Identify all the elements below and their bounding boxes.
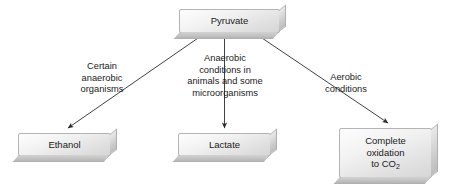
node-bevel-bottom (173, 155, 270, 162)
co2-subscript: 2 (396, 163, 400, 170)
branch-label-line: Aerobic (303, 72, 389, 84)
node-ethanol[interactable]: Ethanol (18, 133, 111, 156)
node-lactate-label: Lactate (205, 139, 244, 151)
diagram-canvas: Pyruvate Certain anaerobic organisms Ana… (0, 0, 476, 193)
branch-label-line: conditions (303, 84, 389, 96)
node-complete-oxidation-label: Complete oxidation to CO2 (361, 135, 410, 171)
oxidation-line-3: to CO (371, 158, 396, 169)
node-bevel-bottom (174, 32, 279, 39)
branch-label-ethanol: Certain anaerobic organisms (63, 61, 141, 96)
branch-label-lactate: Anaerobic conditions in animals and some… (150, 53, 300, 99)
node-ethanol-label: Ethanol (44, 139, 84, 151)
branch-label-line: microorganisms (150, 88, 300, 100)
node-complete-oxidation[interactable]: Complete oxidation to CO2 (339, 128, 432, 178)
branch-label-line: anaerobic (63, 73, 141, 85)
node-bevel-bottom (334, 177, 431, 184)
node-bevel-bottom (13, 155, 110, 162)
branch-label-line: animals and some (150, 76, 300, 88)
node-pyruvate[interactable]: Pyruvate (179, 9, 280, 33)
oxidation-line-2: oxidation (366, 147, 404, 158)
node-bevel-right (431, 124, 438, 177)
branch-label-line: Anaerobic (150, 53, 300, 65)
oxidation-line-1: Complete (365, 135, 406, 146)
node-lactate[interactable]: Lactate (178, 133, 271, 156)
node-pyruvate-label: Pyruvate (207, 15, 253, 27)
branch-label-oxidation: Aerobic conditions (303, 72, 389, 95)
branch-label-line: organisms (63, 84, 141, 96)
branch-label-line: Certain (63, 61, 141, 73)
branch-label-line: conditions in (150, 65, 300, 77)
